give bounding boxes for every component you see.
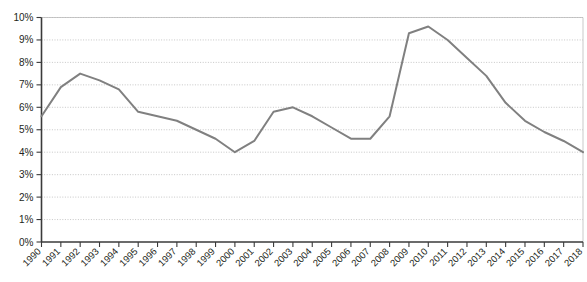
x-tick-label: 1999 xyxy=(194,246,217,269)
x-tick-label: 2002 xyxy=(252,246,275,269)
x-tick-label: 1994 xyxy=(98,246,121,269)
x-tick-label: 2011 xyxy=(427,246,449,268)
y-tick-label: 8% xyxy=(19,57,34,68)
x-tick-label: 1992 xyxy=(59,246,82,269)
data-line xyxy=(42,26,584,152)
x-tick-label: 2004 xyxy=(291,246,314,269)
x-tick-label: 2010 xyxy=(407,246,430,269)
x-tick-label: 2007 xyxy=(349,246,372,269)
x-tick-label: 1997 xyxy=(156,246,179,269)
x-tick-label: 2005 xyxy=(310,246,333,269)
y-tick-label: 9% xyxy=(19,34,34,45)
x-tick-label: 2001 xyxy=(233,246,256,269)
x-axis-tick-labels: 1990199119921993199419951996199719981999… xyxy=(20,246,584,269)
x-tick-label: 2012 xyxy=(446,246,469,269)
x-tick-label: 1991 xyxy=(40,246,63,269)
line-chart: 0%1%2%3%4%5%6%7%8%9%10% 1990199119921993… xyxy=(0,0,587,282)
x-tick-label: 1996 xyxy=(136,246,159,269)
x-tick-label: 2003 xyxy=(272,246,295,269)
y-tick-label: 2% xyxy=(19,192,34,203)
x-tick-label: 1993 xyxy=(78,246,101,269)
x-tick-label: 1990 xyxy=(20,246,43,269)
y-tick-label: 3% xyxy=(19,169,34,180)
chart-gridlines xyxy=(42,18,584,220)
y-tick-label: 1% xyxy=(19,214,34,225)
x-tick-label: 2017 xyxy=(542,246,565,269)
x-tick-label: 2016 xyxy=(523,246,546,269)
x-tick-label: 2006 xyxy=(330,246,353,269)
y-tick-label: 7% xyxy=(19,79,34,90)
x-tick-label: 2000 xyxy=(214,246,237,269)
x-tick-label: 2015 xyxy=(504,246,527,269)
y-tick-label: 6% xyxy=(19,102,34,113)
y-tick-label: 10% xyxy=(13,12,33,23)
chart-plot-area: 0%1%2%3%4%5%6%7%8%9%10% 1990199119921993… xyxy=(0,0,587,282)
x-tick-label: 2013 xyxy=(465,246,488,269)
x-tick-label: 1995 xyxy=(117,246,140,269)
x-tick-label: 2009 xyxy=(388,246,411,269)
x-tick-label: 2018 xyxy=(562,246,585,269)
y-tick-label: 0% xyxy=(19,237,34,248)
y-tick-label: 5% xyxy=(19,124,34,135)
x-tick-label: 2014 xyxy=(484,246,507,269)
x-tick-label: 2008 xyxy=(368,246,391,269)
chart-canvas: 0%1%2%3%4%5%6%7%8%9%10% 1990199119921993… xyxy=(0,0,587,282)
y-tick-label: 4% xyxy=(19,147,34,158)
x-tick-label: 1998 xyxy=(175,246,198,269)
data-series-group xyxy=(42,26,584,152)
y-axis-tick-labels: 0%1%2%3%4%5%6%7%8%9%10% xyxy=(13,12,33,248)
